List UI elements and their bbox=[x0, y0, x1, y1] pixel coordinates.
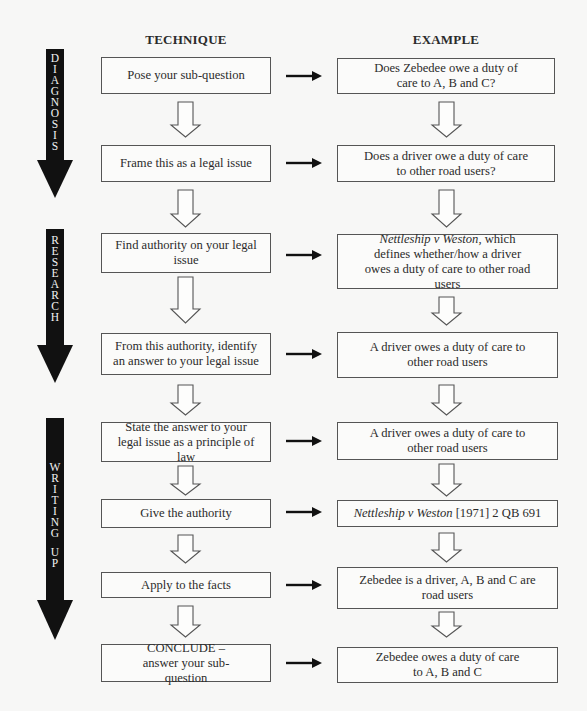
technique-step-6: Give the authority bbox=[101, 499, 271, 528]
example-column-header: EXAMPLE bbox=[337, 32, 555, 48]
example-step-2: Does a driver owe a duty of care to othe… bbox=[337, 145, 555, 182]
example-step-8: Zebedee owes a duty of care to A, B and … bbox=[337, 647, 558, 683]
down-arrow-icon bbox=[432, 533, 461, 562]
example-step-1: Does Zebedee owe a duty of care to A, B … bbox=[337, 58, 555, 94]
technique-step-7: Apply to the facts bbox=[101, 572, 271, 598]
phase-writing-up-bar: WR IT IN G UP bbox=[46, 418, 64, 601]
example-step-3: Nettleship v Weston, which defines wheth… bbox=[337, 234, 558, 289]
example-step-6: Nettleship v Weston [1971] 2 QB 691 bbox=[337, 500, 558, 527]
right-arrow-icon bbox=[286, 580, 322, 590]
down-arrow-icon bbox=[432, 297, 461, 325]
technique-step-5: State the answer to your legal issue as … bbox=[101, 422, 271, 462]
right-arrow-icon bbox=[286, 349, 322, 359]
down-arrow-icon bbox=[171, 535, 200, 563]
technique-step-1: Pose your sub-question bbox=[101, 57, 271, 94]
down-arrow-icon bbox=[171, 277, 200, 323]
down-arrow-icon bbox=[171, 190, 200, 227]
phase-research-bar: RE SE AR CH bbox=[46, 229, 64, 346]
technique-step-2: Frame this as a legal issue bbox=[101, 145, 271, 182]
technique-column-header: TECHNIQUE bbox=[101, 32, 271, 48]
technique-step-4: From this authority, identify an answer … bbox=[101, 333, 271, 375]
down-arrow-icon bbox=[432, 464, 461, 496]
down-arrow-icon bbox=[432, 385, 461, 415]
right-arrow-icon bbox=[286, 250, 322, 260]
technique-step-8: CONCLUDE – answer your sub-question bbox=[101, 644, 271, 682]
down-arrow-icon bbox=[171, 385, 200, 415]
right-arrow-icon bbox=[286, 71, 322, 81]
phase-research-arrowhead-icon bbox=[37, 345, 73, 383]
right-arrow-icon bbox=[286, 436, 322, 446]
down-arrow-icon bbox=[171, 466, 200, 495]
right-arrow-icon bbox=[286, 158, 322, 168]
phase-writing-up-arrowhead-icon bbox=[37, 600, 73, 640]
down-arrow-icon bbox=[432, 612, 461, 637]
example-step-4: A driver owes a duty of care to other ro… bbox=[337, 332, 558, 378]
example-step-5: A driver owes a duty of care to other ro… bbox=[337, 422, 558, 460]
down-arrow-icon bbox=[432, 190, 461, 227]
phase-diagnosis-arrowhead-icon bbox=[37, 160, 73, 198]
phase-diagnosis-bar: DI AG NO SI S bbox=[46, 49, 64, 161]
down-arrow-icon bbox=[171, 606, 200, 637]
right-arrow-icon bbox=[286, 507, 322, 517]
down-arrow-icon bbox=[432, 102, 461, 137]
technique-step-3: Find authority on your legal issue bbox=[101, 233, 271, 273]
right-arrow-icon bbox=[286, 658, 322, 668]
down-arrow-icon bbox=[171, 102, 200, 137]
example-step-7: Zebedee is a driver, A, B and C are road… bbox=[337, 567, 558, 609]
